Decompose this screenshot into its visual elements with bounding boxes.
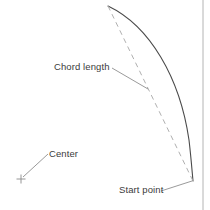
diagram-canvas: Chord length Center Start point [0,0,210,210]
leader-line-start-point [161,181,192,191]
label-chord-length: Chord length [54,61,110,72]
label-start-point: Start point [119,184,163,195]
leader-line-chord-length [112,68,148,89]
chord-dashed-line [108,6,193,181]
label-center: Center [49,148,78,159]
leader-line-center [23,154,48,177]
arc-chord-diagram [0,0,210,210]
